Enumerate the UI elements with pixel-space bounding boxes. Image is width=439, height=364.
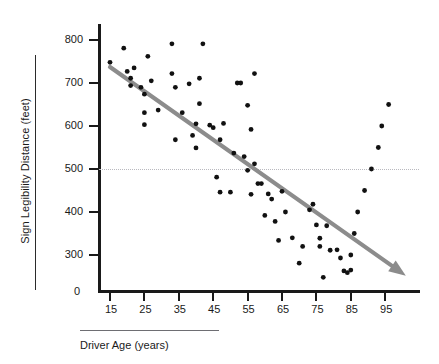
x-axis-title-rule: [80, 330, 219, 331]
data-point: [269, 197, 274, 202]
x-axis-tick-label-45: 45: [199, 303, 229, 315]
data-point: [221, 121, 226, 126]
data-point: [238, 81, 243, 86]
data-point: [207, 123, 212, 128]
data-point: [311, 202, 316, 207]
data-point: [376, 145, 381, 150]
x-axis-tick-label-75: 75: [302, 303, 332, 315]
x-axis-tick-15: [109, 293, 111, 301]
y-axis-tick-label-400: 400: [23, 205, 83, 217]
x-axis-tick-25: [143, 293, 145, 301]
scatter-plot-figure: Sign Legibility Distance (feet) 80070060…: [0, 0, 439, 364]
data-point: [352, 231, 357, 236]
data-point: [262, 213, 267, 218]
data-point: [170, 41, 175, 46]
x-axis-tick-label-85: 85: [337, 303, 367, 315]
data-point: [197, 101, 202, 106]
x-axis-tick-label-55: 55: [234, 303, 264, 315]
data-point: [252, 161, 257, 166]
data-points-group: [108, 41, 391, 279]
data-point: [355, 210, 360, 215]
x-axis-tick-75: [315, 293, 317, 301]
y-axis-tick-800: [89, 39, 98, 41]
y-axis-tick-600: [89, 125, 98, 127]
data-point: [218, 190, 223, 195]
data-point: [190, 133, 195, 138]
x-axis-tick-label-95: 95: [371, 303, 401, 315]
data-point: [180, 110, 185, 115]
data-point: [317, 244, 322, 249]
data-point: [386, 102, 391, 107]
x-axis-line: [98, 290, 420, 293]
x-axis-tick-label-25: 25: [130, 303, 160, 315]
y-axis-tick-700: [89, 82, 98, 84]
data-point: [214, 175, 219, 180]
data-point: [108, 60, 113, 65]
data-point: [338, 256, 343, 261]
data-point: [170, 71, 175, 76]
data-point: [300, 244, 305, 249]
data-point: [194, 146, 199, 151]
data-point: [314, 223, 319, 228]
y-axis-tick-label-600: 600: [23, 119, 83, 131]
data-point: [280, 189, 285, 194]
data-point: [276, 238, 281, 243]
data-point: [266, 192, 271, 197]
data-point: [324, 223, 329, 228]
data-point: [145, 54, 150, 59]
data-point: [194, 121, 199, 126]
data-point: [200, 41, 205, 46]
data-point: [142, 110, 147, 115]
data-point: [252, 71, 257, 76]
y-axis-line: [98, 24, 101, 292]
data-point: [290, 235, 295, 240]
y-axis-zero-label: 0: [74, 285, 80, 297]
data-point: [128, 76, 133, 81]
data-point: [256, 181, 261, 186]
data-point: [125, 69, 130, 74]
data-point: [197, 76, 202, 81]
y-axis-tick-300: [89, 254, 98, 256]
trend-arrow-head: [388, 261, 406, 276]
y-axis-tick-label-800: 800: [23, 33, 83, 45]
x-axis-tick-45: [212, 293, 214, 301]
data-point: [348, 253, 353, 258]
data-point: [245, 103, 250, 108]
data-point: [283, 210, 288, 215]
data-point: [187, 81, 192, 86]
y-axis-tick-500: [89, 168, 98, 170]
data-point: [132, 66, 137, 71]
data-point: [259, 181, 264, 186]
x-axis-tick-55: [247, 293, 249, 301]
y-axis-tick-400: [89, 211, 98, 213]
data-point: [149, 78, 154, 83]
data-point: [273, 219, 278, 224]
data-point: [249, 192, 254, 197]
data-point: [128, 83, 133, 88]
x-axis-tick-label-15: 15: [96, 303, 126, 315]
data-point: [317, 236, 322, 241]
data-point: [321, 275, 326, 280]
data-point: [342, 269, 347, 274]
data-point: [345, 270, 350, 275]
data-point: [297, 261, 302, 266]
data-point: [142, 92, 147, 97]
data-point: [218, 137, 223, 142]
data-point: [156, 108, 161, 113]
data-point: [121, 46, 126, 51]
y-axis-tick-label-300: 300: [23, 248, 83, 260]
data-point: [249, 127, 254, 132]
y-axis-tick-label-700: 700: [23, 76, 83, 88]
data-point: [211, 125, 216, 130]
data-point: [173, 85, 178, 90]
x-axis-tick-35: [178, 293, 180, 301]
data-point: [307, 207, 312, 212]
y-axis-tick-label-500: 500: [23, 162, 83, 174]
data-point: [228, 190, 233, 195]
data-point: [142, 122, 147, 127]
x-axis-tick-95: [384, 293, 386, 301]
data-point: [235, 81, 240, 86]
data-point: [379, 124, 384, 129]
legibility-500-feet: [99, 169, 419, 171]
data-point: [362, 188, 367, 193]
